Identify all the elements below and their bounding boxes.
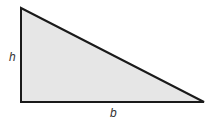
right-triangle xyxy=(21,8,204,102)
base-label: b xyxy=(110,106,117,120)
triangle-diagram: h b xyxy=(0,0,209,128)
height-label: h xyxy=(9,50,16,64)
